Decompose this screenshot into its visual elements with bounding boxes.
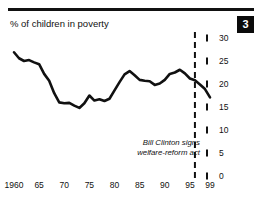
y-axis-label: 15 xyxy=(219,103,228,112)
y-axis-label: 25 xyxy=(219,57,228,66)
x-axis-label: 1960 xyxy=(5,180,24,190)
x-axis-label: 70 xyxy=(60,180,69,190)
x-axis-label: 90 xyxy=(160,180,169,190)
x-axis-label: 99 xyxy=(205,180,214,190)
y-axis-tick xyxy=(206,81,208,88)
y-axis-tick xyxy=(206,150,208,157)
y-axis-label: 5 xyxy=(219,149,224,158)
x-axis-label: 75 xyxy=(85,180,94,190)
y-axis-tick xyxy=(206,58,208,65)
y-axis-tick xyxy=(206,35,208,42)
x-axis-label: 85 xyxy=(135,180,144,190)
chart-panel: % of children in poverty 3 051015202530 … xyxy=(0,0,262,209)
page-title: % of children in poverty xyxy=(10,18,109,30)
y-axis: 051015202530 xyxy=(206,38,256,176)
annotation-line-1: Bill Clinton signs xyxy=(137,138,200,148)
series-line-poverty xyxy=(14,52,210,108)
y-axis-label: 30 xyxy=(219,34,228,43)
x-axis-label: 95 xyxy=(185,180,194,190)
top-rule xyxy=(8,8,254,11)
x-axis: 19606570758085909599 xyxy=(0,180,262,194)
x-axis-label: 65 xyxy=(34,180,43,190)
y-axis-tick xyxy=(206,173,208,180)
annotation-line-2: welfare-reform act xyxy=(137,148,200,158)
x-axis-label: 80 xyxy=(110,180,119,190)
welfare-reform-annotation: Bill Clinton signs welfare-reform act xyxy=(137,138,200,157)
y-axis-label: 20 xyxy=(219,80,228,89)
y-axis-tick xyxy=(206,127,208,134)
y-axis-tick xyxy=(206,104,208,111)
chart-number-badge: 3 xyxy=(237,16,254,33)
y-axis-label: 10 xyxy=(219,126,228,135)
chart-header: % of children in poverty 3 xyxy=(10,15,254,33)
